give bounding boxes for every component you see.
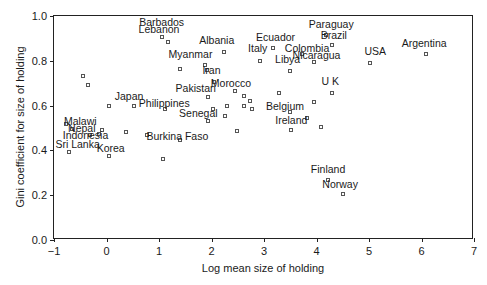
data-point-marker xyxy=(107,104,111,108)
data-point-label: Albania xyxy=(199,34,234,46)
data-point-marker xyxy=(100,128,104,132)
data-point-marker xyxy=(330,91,334,95)
x-tick-mark xyxy=(159,238,160,242)
data-point-marker xyxy=(178,138,182,142)
data-point-label: Paraguay xyxy=(309,18,354,30)
data-point-marker xyxy=(312,60,316,64)
data-point-label: Lebanon xyxy=(139,23,180,35)
y-tick-label: 0.8 xyxy=(32,55,47,67)
x-tick-label: 5 xyxy=(366,245,372,257)
data-point-marker xyxy=(206,95,210,99)
data-point-label: Ecuador xyxy=(256,31,295,43)
data-point-marker xyxy=(124,130,128,134)
data-point-marker xyxy=(132,104,136,108)
y-tick-label: 0.2 xyxy=(32,189,47,201)
data-point-marker xyxy=(211,107,215,111)
x-tick-mark xyxy=(107,238,108,242)
data-point-label: Korea xyxy=(97,142,125,154)
data-point-marker xyxy=(206,119,210,123)
plot-area: 0.00.20.40.60.81.0 −101234567 BarbadosLe… xyxy=(53,15,473,239)
data-point-marker xyxy=(86,83,90,87)
data-point-marker xyxy=(163,107,167,111)
x-tick-label: 7 xyxy=(471,245,477,257)
data-point-marker xyxy=(225,104,229,108)
data-point-marker xyxy=(235,129,239,133)
data-point-label: Sri Lanka xyxy=(55,138,99,150)
data-point-marker xyxy=(288,69,292,73)
x-tick-label: 3 xyxy=(261,245,267,257)
data-point-marker xyxy=(205,68,209,72)
data-point-marker xyxy=(223,114,227,118)
x-tick-label: −1 xyxy=(48,245,61,257)
data-point-label: Italy xyxy=(248,42,267,54)
y-tick-mark xyxy=(50,106,54,107)
data-point-label: Malawi xyxy=(64,115,97,127)
data-point-marker xyxy=(222,50,226,54)
y-tick-mark xyxy=(50,16,54,17)
x-tick-label: 1 xyxy=(156,245,162,257)
data-point-marker xyxy=(81,74,85,78)
x-tick-label: 6 xyxy=(418,245,424,257)
data-point-marker xyxy=(67,150,71,154)
data-point-label: USA xyxy=(365,45,387,57)
data-point-marker xyxy=(178,67,182,71)
data-point-label: Colombia xyxy=(285,42,329,54)
scatter-chart-figure: Gini coefficient for size of holding Log… xyxy=(0,0,487,285)
data-point-label: Argentina xyxy=(402,37,447,49)
data-point-marker xyxy=(326,178,330,182)
data-point-marker xyxy=(341,192,345,196)
data-point-marker xyxy=(277,91,281,95)
data-point-marker xyxy=(160,35,164,39)
y-tick-label: 0.6 xyxy=(32,100,47,112)
data-point-label: Ireland xyxy=(275,114,307,126)
data-point-marker xyxy=(107,154,111,158)
data-point-marker xyxy=(312,100,316,104)
x-tick-mark xyxy=(369,238,370,242)
data-point-marker xyxy=(64,122,68,126)
data-point-marker xyxy=(212,80,216,84)
x-tick-label: 0 xyxy=(103,245,109,257)
data-point-label: Barbados xyxy=(139,16,184,28)
data-point-marker xyxy=(203,63,207,67)
data-point-label: Morocco xyxy=(211,77,251,89)
data-point-label: Belgium xyxy=(266,100,304,112)
data-point-marker xyxy=(233,89,237,93)
data-point-marker xyxy=(324,33,328,37)
data-point-marker xyxy=(242,104,246,108)
data-point-marker xyxy=(258,59,262,63)
data-point-marker xyxy=(368,61,372,65)
data-point-label: Pakistan xyxy=(176,82,216,94)
data-point-marker xyxy=(88,133,92,137)
x-tick-mark xyxy=(317,238,318,242)
data-point-label: Libya xyxy=(275,53,300,65)
data-point-marker xyxy=(250,107,254,111)
data-point-marker xyxy=(271,46,275,50)
x-tick-label: 4 xyxy=(313,245,319,257)
data-point-label: Japan xyxy=(115,90,144,102)
data-point-marker xyxy=(330,43,334,47)
data-point-marker xyxy=(242,94,246,98)
y-tick-label: 1.0 xyxy=(32,10,47,22)
data-point-label: Myanmar xyxy=(169,48,213,60)
x-axis-title: Log mean size of holding xyxy=(53,262,473,274)
x-tick-mark xyxy=(422,238,423,242)
x-tick-mark xyxy=(212,238,213,242)
y-axis-title: Gini coefficient for size of holding xyxy=(14,15,26,239)
data-point-marker xyxy=(70,127,74,131)
data-point-marker xyxy=(289,128,293,132)
data-point-marker xyxy=(319,125,323,129)
y-tick-label: 0.4 xyxy=(32,144,47,156)
x-tick-mark xyxy=(54,238,55,242)
data-point-marker xyxy=(161,157,165,161)
data-point-marker xyxy=(300,52,304,56)
data-point-marker xyxy=(248,99,252,103)
data-point-marker xyxy=(166,40,170,44)
x-tick-mark xyxy=(474,238,475,242)
y-tick-mark xyxy=(50,61,54,62)
data-point-marker xyxy=(145,133,149,137)
y-tick-mark xyxy=(50,150,54,151)
y-tick-label: 0.0 xyxy=(32,234,47,246)
x-tick-label: 2 xyxy=(208,245,214,257)
data-point-marker xyxy=(305,116,309,120)
data-point-marker xyxy=(424,52,428,56)
